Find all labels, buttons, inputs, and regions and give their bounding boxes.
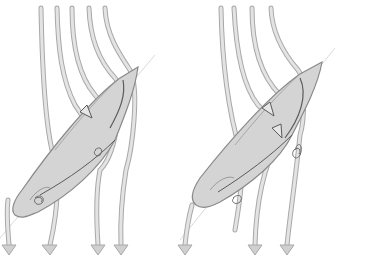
- arrow-down-icon: [91, 245, 105, 255]
- left-arrowheads: [2, 245, 128, 255]
- right-arrowheads: [178, 245, 294, 255]
- airflow-diagram: Two side-by-side sketches of airflow str…: [0, 0, 365, 268]
- arrow-down-icon: [114, 245, 128, 255]
- right-panel: [178, 8, 335, 255]
- arrow-down-icon: [178, 245, 192, 255]
- arrow-down-icon: [42, 245, 57, 255]
- arrow-down-icon: [280, 245, 294, 255]
- arrow-down-icon: [248, 245, 262, 255]
- diagram-svg: [0, 0, 365, 268]
- arrow-down-icon: [2, 245, 16, 255]
- streamline-1: [185, 8, 242, 245]
- left-car: [13, 67, 138, 217]
- left-panel: [0, 8, 155, 255]
